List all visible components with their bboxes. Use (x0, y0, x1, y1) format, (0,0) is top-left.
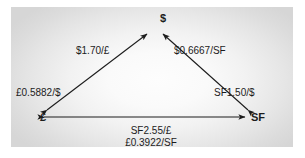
edge-label-dollar-per-pound: $1.70/£ (76, 45, 109, 57)
diagram-panel: $ £ SF $1.70/£ $0.6667/SF £0.5882/$ SF1.… (11, 7, 293, 147)
node-dollar: $ (151, 13, 175, 24)
node-pound: £ (35, 112, 51, 123)
edge-label-pound-per-franc: £0.3922/SF (86, 137, 216, 147)
edge-label-franc-per-pound: SF2.55/£ (86, 125, 216, 137)
figure-root: $ £ SF $1.70/£ $0.6667/SF £0.5882/$ SF1.… (0, 0, 305, 158)
node-franc: SF (251, 112, 275, 123)
edge-label-pound-franc-group: SF2.55/£ £0.3922/SF (86, 125, 216, 147)
edge-label-franc-per-dollar: SF1.50/$ (214, 87, 255, 99)
edge-label-dollar-per-franc: $0.6667/SF (174, 45, 226, 57)
edge-label-pound-per-dollar: £0.5882/$ (16, 87, 61, 99)
